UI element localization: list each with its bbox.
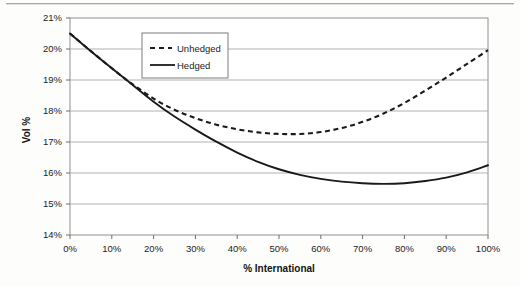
x-tick-label: 40% [228, 243, 248, 254]
y-tick-label: 21% [43, 12, 63, 23]
plot-area-frame [70, 18, 488, 235]
x-axis-title: % International [243, 263, 315, 274]
y-tick-label: 18% [43, 105, 63, 116]
y-tick-label: 20% [43, 43, 63, 54]
chart-legend: Unhedged Hedged [142, 33, 228, 78]
x-tick-label: 80% [395, 243, 415, 254]
x-axis-tick-labels: 0%10%20%30%40%50%60%70%80%90%100% [63, 243, 501, 254]
y-tick-label: 19% [43, 74, 63, 85]
x-tick-label: 60% [311, 243, 331, 254]
x-tick-label: 0% [63, 243, 77, 254]
y-axis-tick-labels: 14%15%16%17%18%19%20%21% [43, 12, 63, 240]
x-tick-label: 50% [269, 243, 289, 254]
y-tick-marks [66, 18, 70, 235]
x-tick-label: 70% [353, 243, 373, 254]
y-axis-title: Vol % [21, 117, 32, 144]
volatility-line-chart: 14%15%16%17%18%19%20%21% 0%10%20%30%40%5… [0, 0, 520, 286]
x-tick-marks [70, 235, 488, 239]
legend-label-unhedged: Unhedged [177, 43, 221, 54]
y-tick-label: 15% [43, 198, 63, 209]
x-tick-label: 20% [144, 243, 164, 254]
x-tick-label: 100% [476, 243, 501, 254]
y-tick-label: 16% [43, 167, 63, 178]
y-tick-label: 14% [43, 229, 63, 240]
legend-label-hedged: Hedged [177, 60, 210, 71]
x-tick-label: 90% [437, 243, 457, 254]
chart-container: 14%15%16%17%18%19%20%21% 0%10%20%30%40%5… [0, 0, 520, 286]
x-tick-label: 30% [186, 243, 206, 254]
x-tick-label: 10% [102, 243, 122, 254]
legend-box [142, 33, 228, 78]
y-tick-label: 17% [43, 136, 63, 147]
